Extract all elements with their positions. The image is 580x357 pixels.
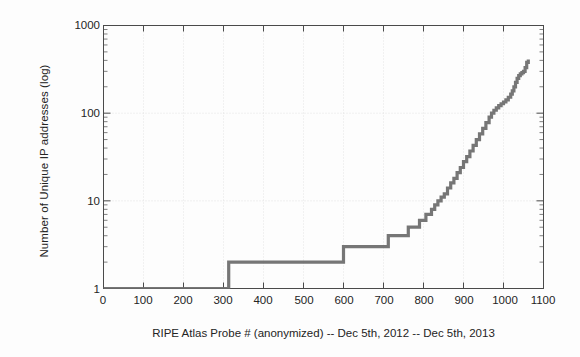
chart-canvas [103,25,544,289]
y-tick-label-1: 1 [60,283,100,295]
y-tick-label-10: 10 [60,195,100,207]
y-axis-label: Number of Unique IP addresses (log) [38,31,50,291]
y-tick-label-100: 100 [60,107,100,119]
x-tick-label-400: 400 [253,294,272,306]
x-tick-label-700: 700 [374,294,393,306]
data-series [104,59,529,288]
x-tick-label-100: 100 [133,294,152,306]
x-tick-label-600: 600 [334,294,353,306]
x-tick-label-0: 0 [100,294,106,306]
chart-figure: Number of Unique IP addresses (log) 1000… [0,0,580,357]
x-tick-label-800: 800 [414,294,433,306]
x-tick-label-500: 500 [294,294,313,306]
x-tick-label-300: 300 [213,294,232,306]
plot-area [103,25,544,289]
y-axis-tick-labels: 1000 100 10 1 [56,0,100,357]
x-tick-label-900: 900 [454,294,473,306]
x-tick-label-1000: 1000 [492,294,518,306]
grid-lines [104,26,544,289]
plot-frame [104,26,544,289]
major-ticks [104,26,544,289]
x-axis-label: RIPE Atlas Probe # (anonymized) -- Dec 5… [103,327,544,339]
y-tick-label-1000: 1000 [60,19,100,31]
x-tick-label-200: 200 [173,294,192,306]
x-tick-label-1100: 1100 [531,294,556,306]
